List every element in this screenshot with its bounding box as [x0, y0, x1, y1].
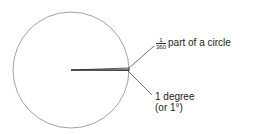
fraction-text: part of a circle — [168, 37, 231, 48]
degree-label-line1: 1 degree — [155, 91, 194, 102]
degree-label: 1 degree (or 1°) — [155, 91, 194, 113]
fraction-denominator: 360 — [156, 44, 166, 50]
fraction-label: 1 360 part of a circle — [156, 37, 231, 50]
fraction-leader-line — [129, 46, 154, 68]
fraction-numerator: 1 — [156, 37, 166, 44]
degree-diagram — [0, 0, 254, 134]
degree-label-line2: (or 1°) — [155, 102, 194, 113]
degree-leader-line — [128, 71, 152, 95]
fraction: 1 360 — [156, 37, 166, 50]
